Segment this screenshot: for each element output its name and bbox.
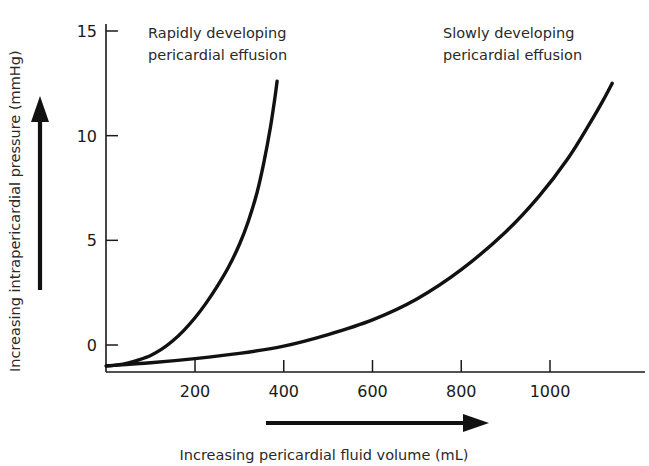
x-tick-label: 1000 <box>530 382 571 401</box>
y-tick-label: 15 <box>77 22 97 41</box>
pericardial-pressure-volume-chart: 051015 2004006008001000 Rapidly developi… <box>0 0 649 466</box>
curve-slowly-developing-effusion <box>106 83 612 366</box>
x-axis-title: Increasing pericardial fluid volume (mL) <box>180 447 469 463</box>
annotation-rapid-line2: pericardial effusion <box>148 47 287 63</box>
y-tick-label: 10 <box>77 127 97 146</box>
x-tick-label: 200 <box>180 382 211 401</box>
y-tick-label: 0 <box>87 336 97 355</box>
y-axis-title: Increasing intrapericardial pressure (mm… <box>7 50 23 372</box>
x-tick-label: 800 <box>446 382 477 401</box>
x-tick-label: 600 <box>357 382 388 401</box>
y-tick-label: 5 <box>87 231 97 250</box>
x-tick-label: 400 <box>268 382 299 401</box>
annotation-slow-line2: pericardial effusion <box>443 47 582 63</box>
x-axis-direction-arrow <box>266 414 489 432</box>
y-axis-ticks: 051015 <box>77 22 118 355</box>
annotation-slow-line1: Slowly developing <box>443 25 574 41</box>
curve-rapidly-developing-effusion <box>106 81 277 366</box>
x-axis-ticks: 2004006008001000 <box>180 360 571 401</box>
y-axis-direction-arrow <box>31 96 49 290</box>
annotation-rapid-line1: Rapidly developing <box>148 25 286 41</box>
